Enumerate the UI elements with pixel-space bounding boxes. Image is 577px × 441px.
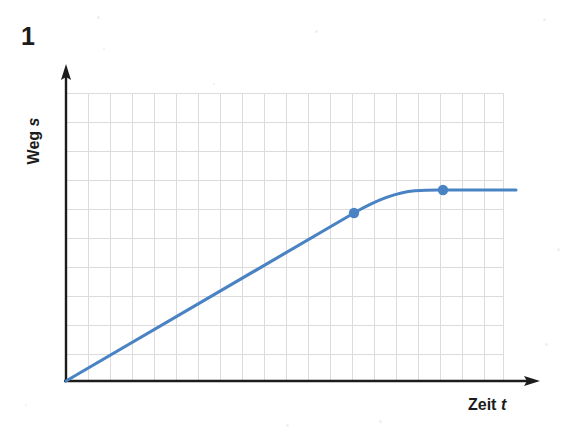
y-axis-label-symbol	[25, 126, 42, 130]
data-point-2	[438, 185, 448, 195]
data-point-1	[349, 208, 359, 218]
x-axis-label-text: Zeit	[468, 396, 496, 413]
chart-plot	[0, 0, 577, 441]
figure-container: 1	[0, 0, 577, 441]
y-axis-label-container: Weg s	[12, 96, 56, 186]
y-axis-label-symbol-value: s	[25, 118, 42, 127]
data-series-weg-zeit	[66, 190, 516, 381]
grid-lines	[66, 93, 504, 381]
series-line-weg-zeit	[66, 190, 516, 381]
x-axis-label: Zeit t	[468, 396, 506, 414]
y-axis-label: Weg s	[25, 118, 43, 165]
x-axis-label-symbol-value: t	[501, 396, 506, 413]
y-axis	[61, 64, 71, 381]
x-axis	[64, 376, 540, 386]
y-axis-label-text: Weg	[25, 131, 42, 164]
